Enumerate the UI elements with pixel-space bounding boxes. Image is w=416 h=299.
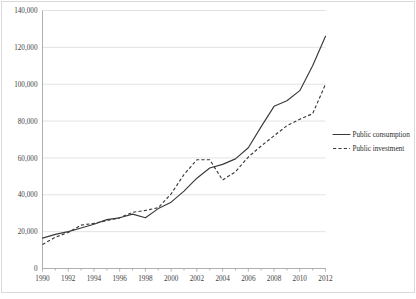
x-axis-tick-label: 1994 (87, 275, 102, 283)
legend-label-2: Public investment (353, 145, 405, 153)
x-axis-tick-label: 1996 (112, 275, 127, 283)
y-axis-tick-label: 100,000 (14, 81, 38, 89)
y-axis-tick-label: 60,000 (18, 155, 38, 163)
y-axis-tick-label: 140,000 (14, 7, 38, 15)
x-axis-tick-label: 2004 (215, 275, 230, 283)
y-axis-tick-label: 120,000 (14, 44, 38, 52)
y-axis-tick-label: 40,000 (18, 191, 38, 199)
y-axis-tick-label: 80,000 (18, 118, 38, 126)
x-axis-tick-label: 2010 (293, 275, 308, 283)
legend-label-1: Public consumption (353, 131, 411, 139)
y-axis-tick-label: 20,000 (18, 228, 38, 236)
line-chart: 020,00040,00060,00080,000100,000120,0001… (0, 0, 416, 299)
chart-figure: 020,00040,00060,00080,000100,000120,0001… (0, 0, 416, 299)
series-path-2 (43, 84, 326, 244)
x-axis-tick-label: 2002 (190, 275, 205, 283)
series-path-1 (43, 36, 326, 238)
x-axis-tick-label: 1990 (35, 275, 50, 283)
y-axis-tick-label: 0 (34, 265, 38, 273)
x-axis-tick-label: 2012 (318, 275, 333, 283)
x-axis-tick-label: 2006 (241, 275, 256, 283)
x-axis-tick-label: 2000 (164, 275, 179, 283)
x-axis-tick-label: 1998 (138, 275, 153, 283)
x-axis-tick-label: 2008 (267, 275, 282, 283)
x-axis-tick-label: 1992 (61, 275, 76, 283)
